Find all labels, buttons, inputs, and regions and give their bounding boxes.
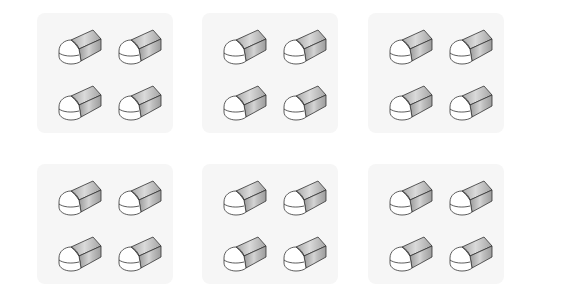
eraser-icon [448,179,494,217]
eraser-icon [57,28,103,66]
eraser-icon [222,235,268,273]
eraser-icon [117,84,163,122]
eraser-icon [388,28,434,66]
eraser-icon [117,179,163,217]
eraser-icon [222,84,268,122]
eraser-icon [57,179,103,217]
eraser-icon [388,235,434,273]
eraser-icon [282,179,328,217]
eraser-icon [57,235,103,273]
eraser-icon [282,28,328,66]
eraser-icon [117,28,163,66]
eraser-icon [57,84,103,122]
eraser-icon [448,28,494,66]
eraser-icon [282,235,328,273]
eraser-icon [388,84,434,122]
eraser-icon [282,84,328,122]
eraser-icon [222,28,268,66]
eraser-icon [448,84,494,122]
eraser-icon [388,179,434,217]
eraser-icon [117,235,163,273]
eraser-icon [448,235,494,273]
eraser-icon [222,179,268,217]
